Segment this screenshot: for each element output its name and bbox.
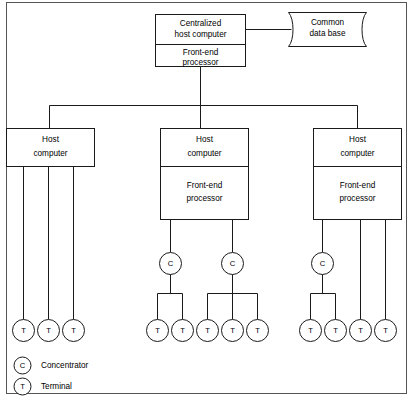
common-database-group: Common data base (246, 13, 367, 47)
terminal-4-symbol: T (155, 326, 160, 335)
host-right-front-end-label-line2: processor (340, 194, 376, 203)
host-right-label-line2: computer (340, 149, 374, 158)
terminal-6-symbol: T (205, 326, 210, 335)
terminal-group-middle: T T T T T (147, 320, 269, 342)
centralized-host-label-line2: host computer (175, 30, 227, 39)
host-left-group: Host computer (7, 129, 95, 320)
terminal-9-symbol: T (308, 326, 313, 335)
host-left-label-line2: computer (33, 149, 67, 158)
terminal-5-symbol: T (180, 326, 185, 335)
host-middle-front-end-label-line2: processor (187, 194, 223, 203)
terminal-8-symbol: T (255, 326, 260, 335)
host-left-label-line1: Host (42, 135, 60, 144)
host-middle-front-end-label-line1: Front-end (187, 181, 223, 190)
legend-concentrator-label: Concentrator (41, 361, 89, 370)
terminal-12-symbol: T (383, 326, 388, 335)
host-right-label-line1: Host (349, 135, 367, 144)
terminal-group-left: T T T (13, 320, 85, 342)
terminal-3-symbol: T (71, 326, 76, 335)
terminal-10-symbol: T (333, 326, 338, 335)
terminal-2-symbol: T (46, 326, 51, 335)
legend-terminal-label: Terminal (41, 382, 72, 391)
host-middle-label-line1: Host (196, 135, 214, 144)
concentrator-2-symbol: C (230, 259, 236, 268)
host-middle-label-line2: computer (187, 149, 221, 158)
centralized-host-group: Centralized host computer Front-end proc… (156, 15, 246, 68)
root-front-end-label-line2: processor (183, 58, 219, 67)
terminal-11-symbol: T (358, 326, 363, 335)
terminal-7-symbol: T (230, 326, 235, 335)
host-middle-group: Host computer Front-end processor (161, 129, 249, 253)
legend-terminal-symbol: T (20, 382, 25, 391)
concentrator-1-group: C (158, 253, 183, 320)
host-right-front-end-label-line1: Front-end (340, 181, 376, 190)
root-front-end-label-line1: Front-end (183, 48, 219, 57)
common-database-label-line1: Common (311, 18, 345, 27)
legend-item-terminal: T Terminal (14, 378, 72, 395)
legend-concentrator-symbol: C (20, 361, 26, 370)
common-database-label-line2: data base (310, 29, 346, 38)
centralized-host-label-line1: Centralized (180, 19, 222, 28)
concentrator-2-group: C (208, 253, 258, 320)
concentrator-3-group: C (311, 253, 336, 320)
host-right-group: Host computer Front-end processor (314, 129, 402, 320)
terminal-group-right: T T T T (300, 320, 397, 342)
legend: C Concentrator T Terminal (14, 357, 89, 395)
concentrator-3-symbol: C (320, 259, 326, 268)
terminal-1-symbol: T (21, 326, 26, 335)
diagram-canvas: Centralized host computer Front-end proc… (0, 0, 414, 405)
network-diagram: Centralized host computer Front-end proc… (0, 0, 414, 405)
concentrator-1-symbol: C (168, 259, 174, 268)
legend-item-concentrator: C Concentrator (14, 357, 89, 374)
